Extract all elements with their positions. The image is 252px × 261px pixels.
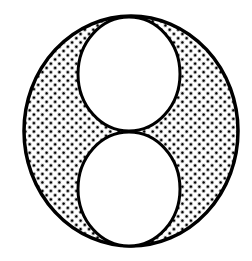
inner-circle-bottom xyxy=(78,132,180,246)
inner-circle-top xyxy=(78,17,180,131)
outer-circle-with-two-inner-circles-diagram xyxy=(0,0,252,261)
diagram-figure xyxy=(0,0,252,261)
